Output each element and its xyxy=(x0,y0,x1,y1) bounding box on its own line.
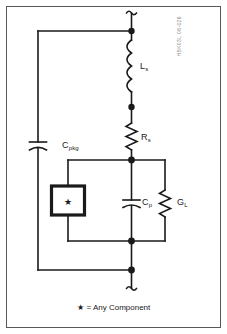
junction-dot-top xyxy=(128,28,134,34)
label-resistor: Rs xyxy=(141,133,151,142)
conductance-zigzag xyxy=(160,190,171,217)
junction-dot-nodec xyxy=(128,157,135,164)
wire-group xyxy=(30,11,171,290)
junction-dot-noded xyxy=(128,238,135,245)
document-code: HBK03L 06-026 xyxy=(176,16,182,57)
label-conductance-main: G xyxy=(177,197,184,207)
label-inductor-sub: s xyxy=(145,66,148,72)
label-capacitor-pkg-sub: pkg xyxy=(69,145,79,151)
junction-dot-nodeb xyxy=(128,104,134,110)
label-capacitor-p: Cp xyxy=(142,198,152,207)
schematic-drawing: ★ xyxy=(0,0,227,334)
inductor-coil xyxy=(127,40,132,92)
label-resistor-main: R xyxy=(141,132,148,142)
label-conductance-sub: L xyxy=(184,202,187,208)
any-component-box-star: ★ xyxy=(64,197,72,207)
label-capacitor-p-main: C xyxy=(142,197,149,207)
label-inductor: Ls xyxy=(140,62,148,71)
label-capacitor-p-sub: p xyxy=(149,202,152,208)
label-conductance: GL xyxy=(177,198,187,207)
figure-caption: ★ = Any Component xyxy=(0,303,227,312)
label-capacitor-pkg-main: C xyxy=(62,140,69,150)
caption-text: = Any Component xyxy=(84,303,150,312)
label-resistor-sub: s xyxy=(148,137,151,143)
figure-root: ★ Ls Rs Cpkg Cp GL HBK03L 06-026 ★ = Any… xyxy=(0,0,227,334)
label-capacitor-pkg: Cpkg xyxy=(62,141,78,150)
resistor-zigzag xyxy=(126,123,137,150)
junction-dot-nodee xyxy=(128,267,135,274)
